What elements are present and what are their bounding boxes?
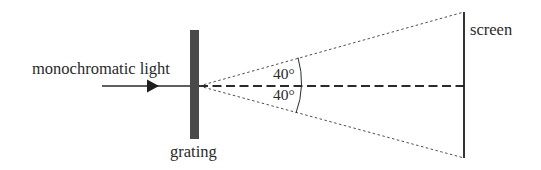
arrowhead-icon <box>147 80 159 93</box>
monochromatic-light-label: monochromatic light <box>32 59 170 78</box>
upper-diffracted-ray <box>199 12 464 86</box>
upper-angle-label: 40° <box>273 65 295 82</box>
grating-bar <box>190 30 199 139</box>
lower-angle-label: 40° <box>273 86 295 103</box>
diffraction-grating-diagram: monochromatic light grating screen 40° 4… <box>0 0 541 170</box>
screen-label: screen <box>470 20 512 39</box>
grating-label: grating <box>170 142 217 161</box>
lower-diffracted-ray <box>199 86 464 158</box>
